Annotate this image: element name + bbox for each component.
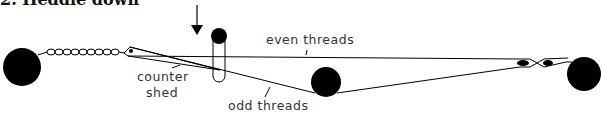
heddle-rod-icon — [211, 28, 227, 82]
lease-stick-right-icon — [543, 60, 553, 66]
odd-threads-line-right — [337, 67, 520, 93]
heddle-down-diagram: 2. Heddle down — [0, 0, 603, 114]
right-roll-icon — [567, 57, 601, 91]
even-threads-pointer — [306, 50, 307, 55]
odd-threads-pointer — [265, 87, 270, 97]
counter-label: counter — [137, 71, 189, 84]
left-roll-icon — [3, 48, 41, 86]
lease-stick-left-icon — [517, 60, 529, 66]
odd-threads-label: odd threads — [228, 100, 308, 113]
lease-cross-left-icon — [124, 47, 220, 70]
middle-roll-icon — [311, 67, 341, 97]
chain-icon — [38, 49, 124, 55]
loom-drawing — [0, 0, 603, 114]
shed-label: shed — [146, 87, 178, 100]
counter-shed-pointer — [172, 65, 180, 68]
down-arrow-icon — [191, 5, 203, 35]
even-threads-line — [128, 56, 520, 59]
even-threads-label: even threads — [266, 34, 354, 47]
